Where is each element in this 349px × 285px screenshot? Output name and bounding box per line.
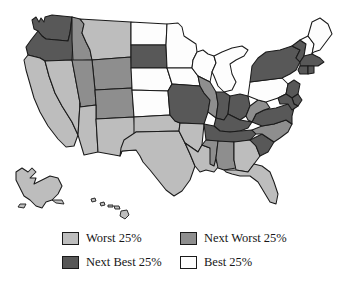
state-MA[interactable]: [300, 54, 324, 66]
us-map-svg: [0, 0, 349, 225]
legend-row: Worst 25% Next Worst 25%: [62, 228, 302, 249]
legend-item-next-worst[interactable]: Next Worst 25%: [180, 232, 300, 245]
legend-row: Next Best 25% Best 25%: [62, 252, 302, 273]
legend-swatch-worst: [62, 232, 79, 245]
state-FL[interactable]: [224, 164, 278, 204]
state-AK-aleutian-1: [18, 204, 26, 208]
legend-item-best[interactable]: Best 25%: [180, 256, 300, 269]
state-NE[interactable]: [131, 68, 172, 91]
state-AK-aleutian-2: [52, 200, 64, 204]
state-KS[interactable]: [132, 90, 170, 117]
legend-item-next-best[interactable]: Next Best 25%: [62, 256, 180, 269]
legend-swatch-next-best: [62, 256, 79, 269]
state-RI[interactable]: [308, 66, 314, 74]
state-ND[interactable]: [131, 22, 167, 45]
state-SD[interactable]: [131, 45, 167, 68]
state-HI-molokai: [108, 205, 113, 207]
legend-label-next-worst: Next Worst 25%: [204, 232, 287, 245]
state-MI[interactable]: [212, 46, 248, 92]
legend: Worst 25% Next Worst 25% Next Best 25% B…: [62, 228, 302, 274]
legend-label-next-best: Next Best 25%: [86, 256, 162, 269]
state-CO[interactable]: [95, 88, 134, 119]
choropleth-figure: Worst 25% Next Worst 25% Next Best 25% B…: [0, 0, 349, 285]
state-HI-maui: [114, 206, 120, 209]
state-HI-bigisland: [120, 210, 129, 219]
state-HI-kauai: [91, 198, 96, 202]
state-WY[interactable]: [92, 57, 132, 90]
legend-swatch-next-worst: [180, 232, 197, 245]
us-map: [0, 0, 349, 225]
state-CT[interactable]: [298, 66, 308, 74]
legend-label-worst: Worst 25%: [86, 232, 142, 245]
state-AZ[interactable]: [78, 103, 98, 155]
state-NY[interactable]: [250, 46, 300, 82]
legend-item-worst[interactable]: Worst 25%: [62, 232, 180, 245]
state-HI-oahu: [100, 202, 105, 206]
legend-label-best: Best 25%: [204, 256, 252, 269]
legend-swatch-best: [180, 256, 197, 269]
state-AL[interactable]: [216, 141, 236, 170]
